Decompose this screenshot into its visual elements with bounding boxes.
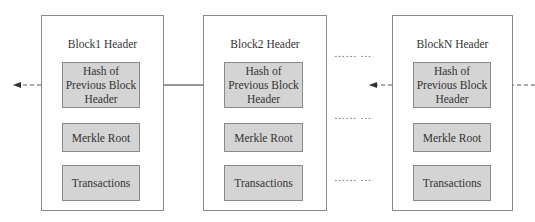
ellipsis-row-2: …… … xyxy=(334,109,372,121)
block-1: Block1 Header Hash of Previous Block Hea… xyxy=(41,15,164,211)
block-2: Block2 Header Hash of Previous Block Hea… xyxy=(203,15,327,211)
block-title: Block1 Header xyxy=(42,38,163,50)
prev-hash-field: Hash of Previous Block Header xyxy=(413,62,491,108)
merkle-root-field: Merkle Root xyxy=(62,123,140,152)
merkle-root-field: Merkle Root xyxy=(413,123,491,152)
ellipsis-row-3: …… … xyxy=(334,171,372,183)
prev-hash-field: Hash of Previous Block Header xyxy=(224,62,303,108)
merkle-root-field: Merkle Root xyxy=(224,123,303,152)
block-title: Block2 Header xyxy=(204,38,326,50)
transactions-field: Transactions xyxy=(62,165,140,201)
block-n: BlockN Header Hash of Previous Block Hea… xyxy=(392,15,513,211)
block-title: BlockN Header xyxy=(393,38,512,50)
prev-hash-field: Hash of Previous Block Header xyxy=(62,62,140,108)
transactions-field: Transactions xyxy=(224,165,303,201)
transactions-field: Transactions xyxy=(413,165,491,201)
ellipsis-row-1: …… … xyxy=(334,47,372,59)
